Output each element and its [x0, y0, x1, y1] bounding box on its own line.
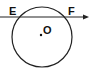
point-label-f: F [68, 5, 75, 17]
arrowhead-icon [83, 15, 89, 20]
geometry-diagram: E F O [0, 0, 90, 75]
point-label-e: E [9, 5, 16, 17]
point-label-o: O [43, 24, 52, 36]
center-point [40, 34, 42, 36]
circle [12, 7, 72, 67]
